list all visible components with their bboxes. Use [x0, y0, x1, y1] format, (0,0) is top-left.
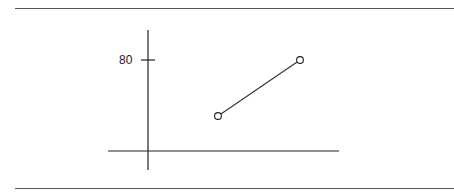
line-chart — [0, 0, 454, 193]
bottom-rule — [15, 188, 454, 189]
data-point-1 — [215, 113, 222, 120]
series-line — [218, 60, 300, 116]
data-point-2 — [297, 57, 304, 64]
y-tick-label-80: 80 — [119, 53, 132, 67]
